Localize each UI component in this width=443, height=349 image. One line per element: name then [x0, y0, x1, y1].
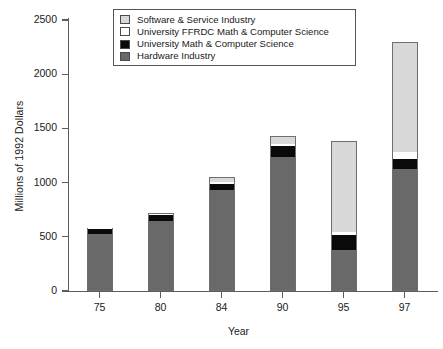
bar-97: [392, 42, 418, 291]
legend-item: University FFRDC Math & Computer Science: [120, 26, 350, 38]
legend-item: University Math & Computer Science: [120, 38, 350, 50]
bar-segment: [87, 234, 113, 291]
x-axis-title: Year: [228, 325, 249, 337]
legend-item-label: Software & Service Industry: [137, 15, 255, 25]
legend-swatch-icon: [120, 15, 130, 24]
y-axis-tick-label: 0: [0, 285, 57, 296]
bar-segment: [331, 235, 357, 250]
bar-segment: [148, 221, 174, 291]
bar-segment: [331, 250, 357, 291]
x-axis-tick: [160, 292, 161, 298]
x-axis-line: [62, 291, 438, 292]
x-axis-tick-label: 95: [324, 301, 364, 313]
y-axis-title: Millions of 1992 Dollars: [13, 71, 25, 241]
y-axis-tick: [62, 74, 69, 75]
bar-segment: [209, 190, 235, 291]
bar-segment: [392, 152, 418, 159]
legend-item: Hardware Industry: [120, 50, 350, 62]
chart-legend: Software & Service IndustryUniversity FF…: [113, 9, 356, 66]
x-axis-tick-label: 84: [202, 301, 242, 313]
y-axis-tick: [62, 236, 69, 237]
bar-segment: [392, 42, 418, 153]
y-axis-tick-label: 1500: [0, 122, 57, 133]
bar-segment: [270, 136, 296, 144]
legend-item-label: Hardware Industry: [137, 51, 215, 61]
bar-segment: [270, 157, 296, 291]
legend-item-label: University Math & Computer Science: [137, 39, 294, 49]
x-axis-tick-label: 97: [385, 301, 425, 313]
bar-segment: [392, 159, 418, 169]
bar-90: [270, 136, 296, 291]
legend-item-label: University FFRDC Math & Computer Science: [137, 27, 329, 37]
x-axis-tick-label: 75: [80, 301, 120, 313]
x-axis-tick: [343, 292, 344, 298]
x-axis-tick-label: 90: [263, 301, 303, 313]
bar-segment: [270, 146, 296, 157]
y-axis-tick-label: 1000: [0, 177, 57, 188]
x-axis-tick: [99, 292, 100, 298]
bar-segment: [392, 169, 418, 291]
x-axis-title-wrap: Year: [0, 325, 443, 337]
y-axis-tick: [62, 19, 69, 20]
y-axis-tick: [62, 290, 69, 291]
x-axis-tick: [404, 292, 405, 298]
y-axis-tick-label: 2500: [0, 14, 57, 25]
chart-figure: Millions of 1992 Dollars 050010001500200…: [0, 0, 443, 349]
y-axis-tick: [62, 182, 69, 183]
y-axis-tick-label: 500: [0, 231, 57, 242]
y-axis-tick-label: 2000: [0, 68, 57, 79]
bar-80: [148, 213, 174, 291]
legend-swatch-icon: [120, 40, 130, 49]
bar-84: [209, 177, 235, 291]
legend-item: Software & Service Industry: [120, 14, 350, 26]
legend-swatch-icon: [120, 27, 130, 36]
legend-swatch-icon: [120, 52, 130, 61]
bar-75: [87, 228, 113, 291]
x-axis-tick-label: 80: [141, 301, 181, 313]
x-axis-tick: [282, 292, 283, 298]
bar-95: [331, 141, 357, 291]
x-axis-tick: [221, 292, 222, 298]
bar-segment: [331, 141, 357, 232]
y-axis-tick: [62, 128, 69, 129]
